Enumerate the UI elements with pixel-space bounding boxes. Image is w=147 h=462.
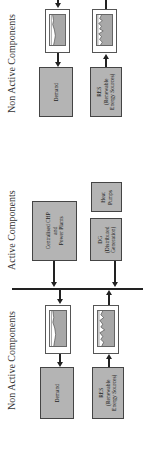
arrow-up-icon xyxy=(106,290,112,295)
chart-plot-area xyxy=(96,14,113,46)
active-section-label: Active Components xyxy=(6,190,17,270)
connector-line xyxy=(108,294,110,305)
dg-line2: (Distributed xyxy=(103,226,110,253)
demand-curve-icon xyxy=(50,15,65,45)
res-line3: Energy Sources) xyxy=(111,375,118,411)
res-box-top: RES (Renewable Energy Sources) xyxy=(90,67,122,117)
res-label: RES (Renewable Energy Sources) xyxy=(98,375,118,411)
chart-plot-area xyxy=(49,310,67,347)
connector-line xyxy=(53,261,55,283)
heat-pumps-box: Heat Pumps xyxy=(91,182,122,212)
chp-box: Centralised CHP and Power Plants xyxy=(32,201,77,261)
connector-line xyxy=(105,0,107,9)
connector-line xyxy=(105,58,107,67)
res-line2: (Renewable xyxy=(105,375,112,411)
res-line1: RES xyxy=(96,74,103,110)
chp-line3: Power Plants xyxy=(58,212,65,249)
res-profile-chart-bottom xyxy=(93,305,119,354)
arrow-down-icon xyxy=(57,299,63,304)
demand-box-top: Demand xyxy=(39,67,73,117)
chp-label: Centralised CHP and Power Plants xyxy=(45,212,65,249)
arrow-up-icon xyxy=(106,354,112,359)
connector-line xyxy=(108,358,110,367)
demand-profile-chart-bottom xyxy=(45,305,71,354)
demand-profile-chart xyxy=(45,9,70,53)
heat-pumps-label: Heat Pumps xyxy=(100,190,113,205)
res-profile-chart xyxy=(92,9,117,53)
chp-line2: and xyxy=(51,212,58,249)
res-label: RES (Renewable Energy Sources) xyxy=(96,74,116,110)
bottom-section-label: Non Active Components xyxy=(6,311,17,410)
bus-line xyxy=(12,288,143,290)
res-line2: (Renewable xyxy=(103,74,110,110)
chart-plot-area xyxy=(49,14,66,46)
dg-box: DG (Distributed Generation) xyxy=(90,218,122,261)
dg-label: DG (Distributed Generation) xyxy=(96,226,116,253)
chp-line1: Centralised CHP xyxy=(45,212,52,249)
res-curve-icon xyxy=(98,311,114,346)
top-section-label: Non Active Components xyxy=(6,14,17,113)
arrow-down-icon xyxy=(55,3,61,8)
dg-line3: Generation) xyxy=(109,226,116,253)
heat-pumps-line1: Heat xyxy=(100,190,107,205)
arrow-down-icon xyxy=(51,282,57,287)
arrow-down-icon xyxy=(112,282,118,287)
arrow-up-icon xyxy=(103,54,109,59)
demand-curve-icon xyxy=(50,311,66,346)
demand-box-bottom: Demand xyxy=(40,367,74,419)
chart-plot-area xyxy=(97,310,115,347)
res-line1: RES xyxy=(98,375,105,411)
dg-line1: DG xyxy=(96,226,103,253)
demand-label: Demand xyxy=(54,384,61,403)
res-line3: Energy Sources) xyxy=(109,74,116,110)
heat-pumps-line2: Pumps xyxy=(106,190,113,205)
demand-label: Demand xyxy=(53,83,60,102)
connector-line xyxy=(114,261,116,283)
res-box-bottom: RES (Renewable Energy Sources) xyxy=(92,367,124,419)
res-curve-icon xyxy=(97,15,112,45)
